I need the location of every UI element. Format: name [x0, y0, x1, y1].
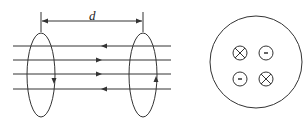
arrow-up-icon — [154, 76, 159, 82]
distance-label: d — [89, 8, 96, 24]
cross-icon — [233, 46, 247, 60]
diagram-canvas — [0, 0, 307, 126]
arrow-down-icon — [52, 78, 57, 84]
dot-icon — [259, 46, 273, 60]
cross-icon — [259, 72, 273, 86]
arrow-left-icon — [101, 44, 107, 49]
field-lines — [13, 44, 171, 92]
arrow-right-icon — [96, 58, 102, 63]
arrow-left-icon — [101, 87, 107, 92]
arrow-right-icon — [96, 72, 102, 77]
cross-section — [210, 16, 302, 108]
dot-icon — [233, 72, 247, 86]
